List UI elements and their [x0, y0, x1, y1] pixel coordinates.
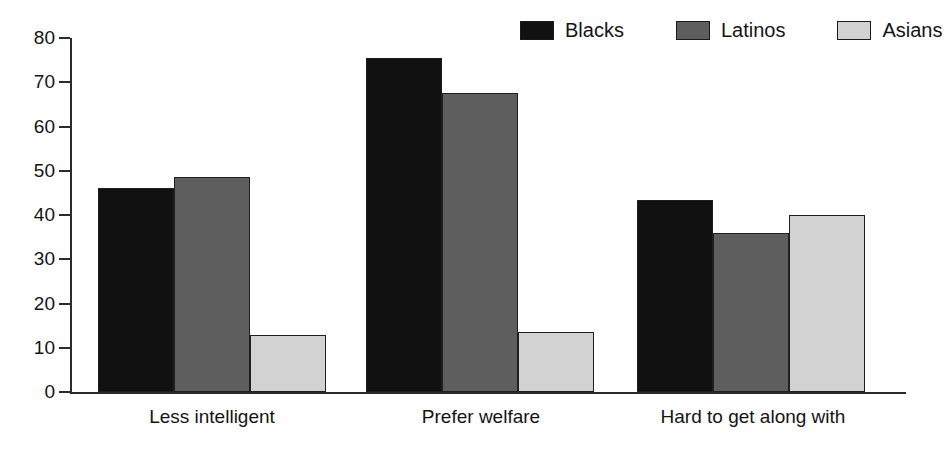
y-tick-label-20: 20	[3, 294, 55, 313]
legend-entry-latinos: Latinos	[676, 20, 786, 40]
bar-asians-0	[250, 335, 326, 392]
legend-label-asians: Asians	[882, 20, 942, 40]
legend-swatch-latinos	[676, 21, 710, 40]
y-tick-30	[59, 258, 70, 260]
x-axis-line	[70, 392, 906, 394]
legend-label-latinos: Latinos	[721, 20, 786, 40]
bar-asians-1	[518, 332, 594, 392]
y-tick-40	[59, 214, 70, 216]
y-tick-label-0: 0	[3, 382, 55, 401]
y-tick-label-50: 50	[3, 161, 55, 180]
y-tick-10	[59, 347, 70, 349]
legend-entry-asians: Asians	[837, 20, 942, 40]
y-tick-50	[59, 170, 70, 172]
bar-asians-2	[789, 215, 865, 392]
y-tick-60	[59, 126, 70, 128]
y-tick-label-70: 70	[3, 72, 55, 91]
legend-label-blacks: Blacks	[565, 20, 624, 40]
legend-entry-blacks: Blacks	[520, 20, 624, 40]
chart-legend: Blacks Latinos Asians	[520, 20, 942, 40]
y-tick-label-40: 40	[3, 205, 55, 224]
y-tick-20	[59, 303, 70, 305]
bar-blacks-0	[98, 188, 174, 392]
x-category-label-2: Hard to get along with	[553, 406, 947, 428]
y-tick-label-80: 80	[3, 28, 55, 47]
y-tick-label-10: 10	[3, 338, 55, 357]
y-tick-70	[59, 81, 70, 83]
legend-swatch-asians	[837, 21, 871, 40]
bar-blacks-2	[637, 200, 713, 392]
y-tick-80	[59, 37, 70, 39]
bar-latinos-0	[174, 177, 250, 392]
bar-blacks-1	[366, 58, 442, 392]
y-tick-0	[59, 391, 70, 393]
y-axis-line	[70, 38, 72, 393]
legend-swatch-blacks	[520, 21, 554, 40]
y-tick-label-30: 30	[3, 249, 55, 268]
bar-latinos-1	[442, 93, 518, 392]
bar-latinos-2	[713, 233, 789, 392]
y-tick-label-60: 60	[3, 117, 55, 136]
